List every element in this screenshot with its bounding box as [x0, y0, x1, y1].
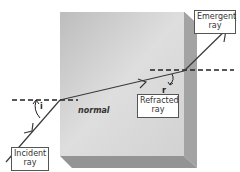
block-front-face	[60, 12, 184, 156]
incident-label-line2: ray	[14, 158, 46, 167]
refraction-diagram: Emergent ray Refracted ray Incident ray …	[0, 0, 240, 172]
incident-label-line1: Incident	[14, 149, 46, 158]
block-right-face	[184, 12, 197, 168]
refracted-ray-label: Refracted ray	[137, 94, 179, 118]
angle-of-incidence-label: i	[40, 102, 43, 111]
incident-ray-label: Incident ray	[11, 147, 49, 171]
angle-of-refraction-label: r	[162, 86, 166, 95]
emergent-ray-label: Emergent ray	[194, 10, 236, 34]
normal-label: normal	[78, 106, 110, 115]
refracted-label-line1: Refracted	[140, 96, 176, 105]
emergent-label-line2: ray	[197, 21, 233, 30]
refracted-label-line2: ray	[140, 105, 176, 114]
emergent-label-line1: Emergent	[197, 12, 233, 21]
glass-block	[60, 12, 197, 168]
incident-arrow-icon	[24, 123, 33, 133]
block-bottom-face	[60, 156, 197, 168]
